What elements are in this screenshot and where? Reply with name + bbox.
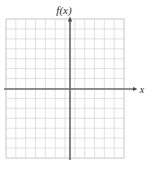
graph-canvas: f(x) x [0, 0, 156, 169]
x-axis-label: x [139, 84, 145, 95]
screenshot-root: f(x) x [0, 0, 156, 169]
coordinate-grid-figure: f(x) x [0, 0, 156, 169]
y-axis-label: f(x) [56, 4, 72, 17]
